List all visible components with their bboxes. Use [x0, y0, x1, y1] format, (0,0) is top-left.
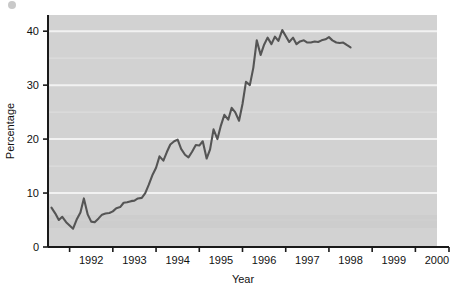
x-axis-tick-label: 1999 — [382, 254, 406, 266]
scan-band — [48, 215, 437, 228]
scan-artifact-mark — [8, 1, 16, 9]
x-axis-tick-label: 1996 — [252, 254, 276, 266]
x-axis-tick-label: 2000 — [425, 254, 449, 266]
x-axis-tick-labels: 199219931994199519961997199819992000 — [79, 254, 449, 266]
chart-figure: 010203040 199219931994199519961997199819… — [0, 0, 461, 290]
x-axis-tick-label: 1993 — [122, 254, 146, 266]
y-axis-tick-label: 40 — [27, 25, 39, 37]
y-axis-tick-label: 0 — [33, 241, 39, 253]
y-axis-title: Percentage — [4, 103, 16, 159]
y-axis-tick-labels: 010203040 — [27, 25, 39, 253]
line-chart: 010203040 199219931994199519961997199819… — [0, 0, 461, 290]
x-axis-title: Year — [232, 273, 255, 285]
y-axis-tick-label: 20 — [27, 133, 39, 145]
y-axis-tick-label: 30 — [27, 79, 39, 91]
plot-background — [48, 15, 437, 247]
x-axis-tick-label: 1997 — [295, 254, 319, 266]
x-axis-tick-label: 1995 — [209, 254, 233, 266]
x-axis-tick-label: 1998 — [338, 254, 362, 266]
y-axis-tick-label: 10 — [27, 187, 39, 199]
x-axis-tick-label: 1992 — [79, 254, 103, 266]
x-axis-tick-label: 1994 — [165, 254, 189, 266]
